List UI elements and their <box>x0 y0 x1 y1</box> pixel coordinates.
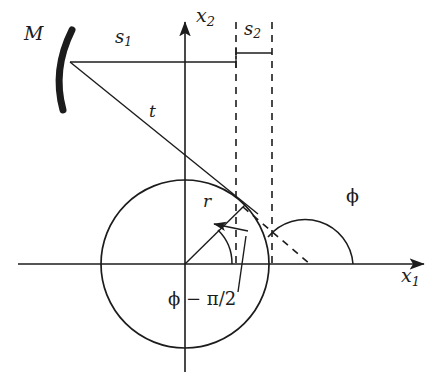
x2-axis-label-text: x <box>196 4 207 26</box>
mirror-label: M <box>24 24 43 43</box>
s1-label-text: s <box>115 26 124 47</box>
x1-axis-label-text: x <box>401 264 412 286</box>
mirror-arc <box>59 30 72 110</box>
t-label: t <box>149 103 156 120</box>
dashed-ray <box>243 207 310 264</box>
phi-minus-halfpi-angle-arc <box>218 230 232 264</box>
s1-label-sub: 1 <box>124 35 132 49</box>
figure-root: M s1 s2 x2 x1 t r ϕ ϕ − π/2 <box>0 0 448 384</box>
s2-label: s2 <box>244 20 261 41</box>
t-ray-line <box>70 62 258 214</box>
x2-axis-label-sub: 2 <box>207 14 215 29</box>
phi-angle-label: ϕ <box>346 186 359 205</box>
s2-label-text: s <box>244 18 253 39</box>
x1-axis-label: x1 <box>401 266 420 289</box>
phi-minus-halfpi-label: ϕ − π/2 <box>168 290 236 308</box>
x1-axis-label-sub: 1 <box>412 274 420 289</box>
s2-label-sub: 2 <box>253 27 261 41</box>
phi-angle-arc <box>268 219 353 264</box>
r-label: r <box>203 193 211 210</box>
s1-label: s1 <box>115 28 132 49</box>
diagram-canvas <box>0 0 448 384</box>
x2-axis-label: x2 <box>196 6 215 29</box>
